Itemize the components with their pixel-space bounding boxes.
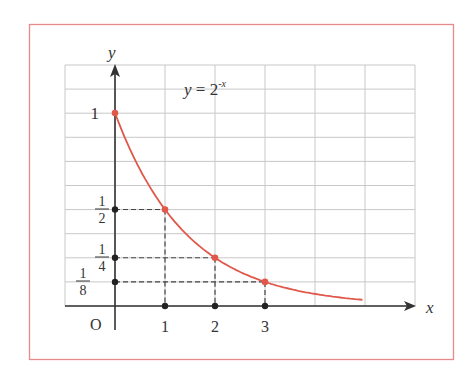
- y-tick-dot: [112, 206, 118, 212]
- curve-point: [262, 279, 269, 286]
- curve-point: [212, 254, 219, 261]
- x-axis-label: x: [425, 298, 434, 317]
- x-tick-dot: [212, 303, 218, 309]
- y-tick-denominator: 4: [99, 259, 106, 274]
- y-axis-label: y: [106, 43, 116, 62]
- y-tick-denominator: 2: [99, 211, 106, 226]
- y-tick-dot: [112, 279, 118, 285]
- origin-label: O: [90, 316, 102, 333]
- y-tick-label: 1: [91, 104, 100, 123]
- y-tick-numerator: 1: [99, 194, 106, 209]
- equation-label: y = 2-x: [182, 78, 226, 99]
- x-tick-label: 2: [211, 318, 219, 335]
- x-tick-dot: [262, 303, 268, 309]
- y-tick-denominator: 8: [80, 283, 87, 298]
- curve-y-equals-2-pow-neg-x: [115, 113, 363, 300]
- x-tick-label: 1: [161, 318, 169, 335]
- y-tick-numerator: 1: [80, 266, 87, 281]
- x-tick-dot: [162, 303, 168, 309]
- curve-point: [112, 110, 119, 117]
- x-tick-label: 3: [261, 318, 269, 335]
- exponential-graph: xyO1231814121y = 2-x: [0, 0, 467, 369]
- frame-border: [30, 25, 454, 360]
- y-tick-dot: [112, 255, 118, 261]
- curve-point: [162, 206, 169, 213]
- y-tick-numerator: 1: [99, 242, 106, 257]
